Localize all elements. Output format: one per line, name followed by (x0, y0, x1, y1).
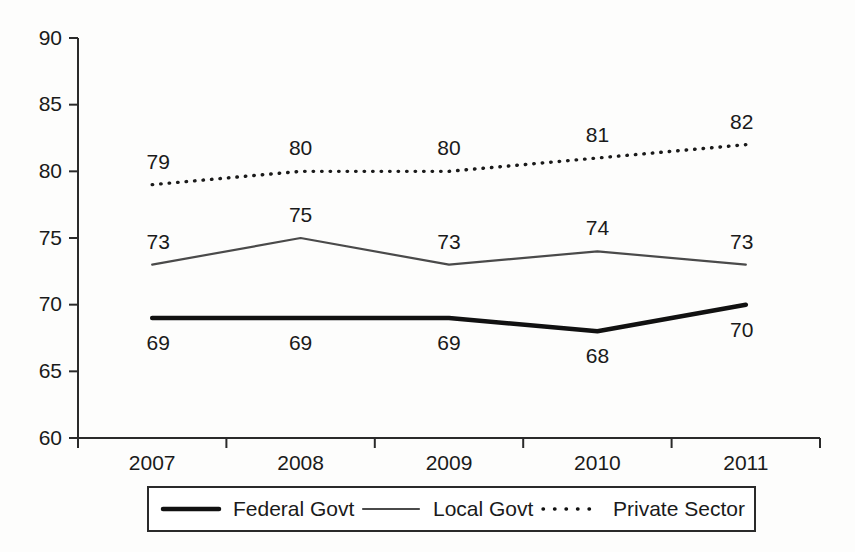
legend-item-label[interactable]: Private Sector (613, 497, 745, 520)
y-axis-tick-label: 75 (39, 226, 62, 249)
chart-canvas: 90858075706560 20072008200920102011 6969… (0, 0, 855, 552)
data-point-label: 73 (147, 230, 170, 253)
data-point-label: 69 (289, 331, 312, 354)
data-point-label: 73 (730, 230, 753, 253)
data-point-label: 74 (586, 216, 610, 239)
y-axis-tick-label: 85 (39, 92, 62, 115)
x-axis-tick-label: 2011 (723, 451, 768, 474)
data-point-label: 79 (147, 150, 170, 173)
data-point-label: 69 (437, 331, 460, 354)
data-point-labels: 696969687073757374737980808182 (147, 110, 754, 368)
y-axis-tick-label: 90 (39, 26, 62, 49)
data-point-label: 80 (437, 136, 460, 159)
y-axis-tick-label: 70 (39, 292, 62, 315)
series-line (152, 305, 746, 332)
data-point-label: 82 (730, 110, 753, 133)
y-axis-tick-label: 60 (39, 426, 62, 449)
legend-item-label[interactable]: Local Govt (433, 497, 534, 520)
data-point-label: 70 (730, 318, 753, 341)
y-axis-tick-label: 80 (39, 159, 62, 182)
x-axis-tick-label: 2007 (129, 451, 176, 474)
x-axis: 20072008200920102011 (78, 438, 820, 474)
y-axis: 90858075706560 (39, 26, 78, 449)
chart-legend: Federal GovtLocal GovtPrivate Sector (148, 487, 755, 531)
data-point-label: 68 (586, 344, 609, 367)
line-chart: 90858075706560 20072008200920102011 6969… (0, 0, 855, 552)
x-axis-tick-label: 2009 (426, 451, 473, 474)
data-point-label: 73 (437, 230, 460, 253)
data-point-label: 81 (586, 123, 609, 146)
data-point-label: 75 (289, 203, 312, 226)
legend-item-label[interactable]: Federal Govt (233, 497, 355, 520)
x-axis-tick-label: 2010 (574, 451, 621, 474)
y-axis-tick-label: 65 (39, 359, 62, 382)
data-point-label: 69 (147, 331, 170, 354)
data-point-label: 80 (289, 136, 312, 159)
x-axis-tick-label: 2008 (277, 451, 324, 474)
